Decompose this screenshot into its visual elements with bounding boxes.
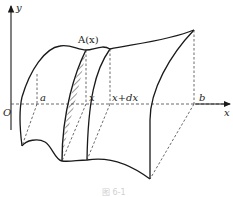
b-label: b: [199, 92, 205, 103]
bottom-curve: [22, 140, 150, 179]
y-axis-label: y: [15, 2, 22, 13]
x-axis-label: x: [224, 107, 230, 118]
slice-x-plus-dx-base: [87, 104, 110, 160]
figure-caption: 图 6-1: [102, 188, 126, 197]
a-label: a: [40, 92, 46, 103]
volume-diagram: y x O A(x) a x x+dx b 图 6-1: [0, 0, 233, 197]
cross-section-slice: [62, 50, 86, 161]
x-plus-dx-label: x+dx: [112, 92, 138, 103]
b-base-dashed: [150, 104, 194, 179]
x-label: x: [89, 92, 95, 103]
origin-label: O: [3, 107, 11, 118]
right-edge: [150, 30, 194, 179]
slice-x-plus-dx-edge: [87, 49, 110, 160]
cross-section-label: A(x): [77, 34, 99, 45]
